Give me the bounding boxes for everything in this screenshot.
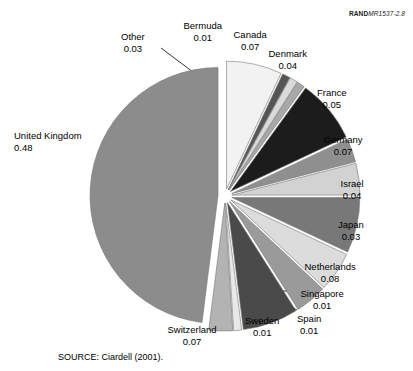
pie-label-name: United Kingdom xyxy=(14,130,82,142)
pie-label-value: 0.01 xyxy=(297,325,321,337)
pie-chart-figure: RANDMR1537-2.8 United Kingdom0.48Other0.… xyxy=(0,0,413,371)
pie-label-singapore: Singapore0.01 xyxy=(301,288,344,311)
pie-label-value: 0.05 xyxy=(317,99,347,111)
pie-label-name: Switzerland xyxy=(168,324,217,336)
pie-label-name: Other xyxy=(121,31,145,43)
leader-line-other xyxy=(161,48,193,72)
pie-label-name: Japan xyxy=(338,219,364,231)
pie-label-name: France xyxy=(317,87,347,99)
pie-label-name: Singapore xyxy=(301,288,344,300)
pie-label-value: 0.01 xyxy=(301,300,344,312)
pie-label-name: Netherlands xyxy=(305,261,356,273)
pie-label-japan: Japan0.03 xyxy=(338,219,364,242)
pie-label-value: 0.07 xyxy=(234,41,267,53)
pie-label-value: 0.01 xyxy=(245,327,279,339)
pie-label-value: 0.07 xyxy=(168,336,217,348)
pie-label-france: France0.05 xyxy=(317,87,347,110)
pie-label-united-kingdom: United Kingdom0.48 xyxy=(14,130,82,153)
pie-label-name: Denmark xyxy=(269,48,308,60)
pie-label-name: Canada xyxy=(234,29,267,41)
pie-label-canada: Canada0.07 xyxy=(234,29,267,52)
pie-label-name: Germany xyxy=(324,134,363,146)
pie-label-value: 0.01 xyxy=(184,32,223,44)
pie-label-germany: Germany0.07 xyxy=(324,134,363,157)
pie-label-name: Bermuda xyxy=(184,20,223,32)
pie-label-other: Other0.03 xyxy=(121,31,145,54)
pie-label-sweden: Sweden0.01 xyxy=(245,315,279,338)
pie-label-name: Sweden xyxy=(245,315,279,327)
pie-label-value: 0.03 xyxy=(121,43,145,55)
pie-label-bermuda: Bermuda0.01 xyxy=(184,20,223,43)
pie-label-value: 0.04 xyxy=(269,60,308,72)
pie-label-name: Spain xyxy=(297,313,321,325)
pie-label-value: 0.03 xyxy=(338,231,364,243)
pie-label-name: Israel xyxy=(341,178,364,190)
pie-label-switzerland: Switzerland0.07 xyxy=(168,324,217,347)
pie-label-value: 0.04 xyxy=(341,190,364,202)
pie-label-denmark: Denmark0.04 xyxy=(269,48,308,71)
pie-label-value: 0.07 xyxy=(324,146,363,158)
pie-slice-united-kingdom[interactable] xyxy=(90,68,218,323)
source-note: SOURCE: Ciardell (2001). xyxy=(58,352,163,362)
pie-label-value: 0.08 xyxy=(305,273,356,285)
pie-label-israel: Israel0.04 xyxy=(341,178,364,201)
pie-label-spain: Spain0.01 xyxy=(297,313,321,336)
pie-label-netherlands: Netherlands0.08 xyxy=(305,261,356,284)
pie-label-value: 0.48 xyxy=(14,142,82,154)
